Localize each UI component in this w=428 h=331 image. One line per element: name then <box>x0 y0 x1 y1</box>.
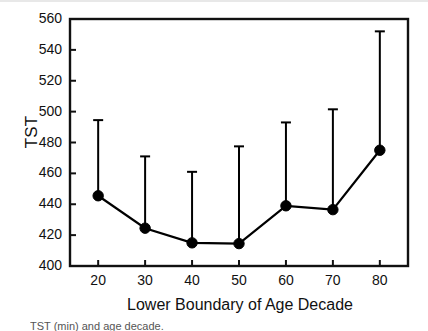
x-axis-title: Lower Boundary of Age Decade <box>70 296 410 314</box>
y-tick-label: 400 <box>22 257 62 273</box>
y-tick-label: 440 <box>22 195 62 211</box>
y-tick-label: 560 <box>22 10 62 26</box>
figure-container: 400420440460480500520540560 203040506070… <box>0 0 428 331</box>
x-tick-label: 20 <box>78 272 118 288</box>
x-tick-label: 80 <box>360 272 400 288</box>
error-bars <box>93 31 385 243</box>
x-tick-label: 70 <box>313 272 353 288</box>
x-tick-label: 30 <box>125 272 165 288</box>
x-tick-label: 50 <box>219 272 259 288</box>
y-tick-label: 540 <box>22 41 62 57</box>
y-tick-label: 520 <box>22 72 62 88</box>
x-tick-label: 40 <box>172 272 212 288</box>
y-tick-label: 420 <box>22 226 62 242</box>
figure-caption: TST (min) and age decade. <box>30 320 426 331</box>
y-axis-title: TST <box>22 92 42 172</box>
x-tick-label: 60 <box>266 272 306 288</box>
